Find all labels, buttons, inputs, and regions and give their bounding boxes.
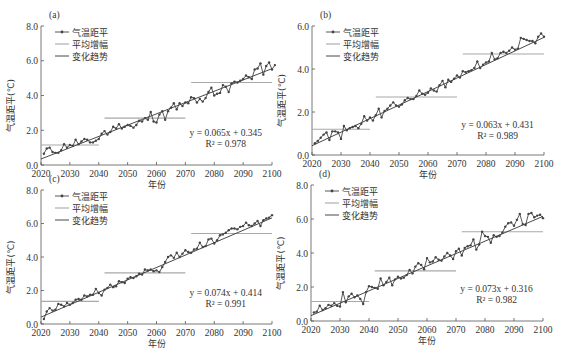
data-point [86,295,88,297]
data-point [485,61,487,63]
data-point [528,40,530,42]
data-point [199,242,201,244]
chart-panel-b: 0.02.04.06.02020203020402050206020702080… [276,10,554,180]
data-point [432,260,434,262]
data-point [152,270,154,272]
data-point [109,283,111,285]
data-point [372,119,374,121]
data-point [121,127,123,129]
data-point [543,36,545,38]
data-point [356,294,358,296]
legend-dot-icon [61,31,64,34]
data-point [187,251,189,253]
regression-equation: y = 0.065x + 0.345 [190,128,263,138]
data-point [520,37,522,39]
data-point [331,130,333,132]
data-point [472,238,474,240]
data-point [320,137,322,139]
data-point [256,220,258,222]
data-point [54,152,56,154]
data-point [375,114,377,116]
y-tick-label: 8.0 [26,186,38,196]
data-point [184,249,186,251]
data-point [475,248,477,250]
data-point [242,225,244,227]
data-point [317,140,319,142]
x-tick-label: 2080 [205,328,224,338]
data-point [505,52,507,54]
x-tick-label: 2030 [332,159,351,169]
data-point [397,276,399,278]
x-tick-label: 2100 [263,169,282,179]
y-tick-label: 6.0 [296,215,308,225]
data-point [126,278,128,280]
data-point [452,258,454,260]
data-point [537,36,539,38]
data-point [429,261,431,263]
data-point [368,285,370,287]
legend-label: 气温距平 [72,27,108,38]
data-point [527,213,529,215]
data-point [167,110,169,112]
y-tick-label: 8.0 [26,22,38,32]
data-point [51,309,53,311]
data-point [462,70,464,72]
data-point [164,119,166,121]
data-point [441,80,443,82]
data-point [150,268,152,270]
data-point [132,277,134,279]
data-point [66,146,68,148]
y-tick-label: 2.0 [296,283,308,293]
x-tick-label: 2030 [331,325,350,335]
data-point [351,126,353,128]
y-axis-label: 气温距平(℃) [275,236,286,289]
data-point [459,76,461,78]
data-point [313,311,315,313]
x-tick-label: 2030 [60,169,79,179]
data-point [199,98,201,100]
data-point [51,151,53,153]
data-point [190,96,192,98]
data-point [147,119,149,121]
data-point [383,110,385,112]
data-point [359,298,361,300]
data-point [482,63,484,65]
data-point [534,42,536,44]
data-point [513,225,515,227]
x-tick-label: 2080 [476,325,495,335]
data-point [126,124,128,126]
data-point [190,252,192,254]
y-tick-label: 4.0 [296,249,308,259]
data-point [271,214,273,216]
data-point [404,99,406,101]
data-point [63,305,65,307]
data-point [178,256,180,258]
x-axis-label: 年份 [148,338,166,349]
data-point [401,103,403,105]
x-tick-label: 2080 [205,169,224,179]
data-point [458,248,460,250]
x-tick-label: 2070 [447,325,466,335]
data-point [467,70,469,72]
data-point [411,272,413,274]
data-point [63,143,65,145]
r-squared-label: R² = 0.978 [205,139,246,149]
data-point [380,116,382,118]
data-point [389,104,391,106]
y-tick-label: 6.0 [26,219,38,229]
data-point [339,305,341,307]
y-tick-label: 2.0 [26,126,38,136]
data-point [403,276,405,278]
y-tick-label: 8.0 [296,181,308,191]
data-point [357,127,359,129]
panel-label: (d) [319,169,330,180]
data-point [433,89,435,91]
x-tick-label: 2020 [32,328,51,338]
data-point [504,225,506,227]
x-tick-label: 2100 [534,325,553,335]
data-point [487,236,489,238]
data-point [95,288,97,290]
data-point [210,237,212,239]
legend-label: 气温距平 [343,27,379,38]
y-tick-label: 6.0 [297,22,309,32]
